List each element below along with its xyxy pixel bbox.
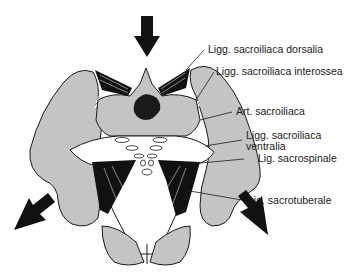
label-art-sacroiliaca: Art. sacroiliaca xyxy=(236,106,305,117)
label-ligg-sacroiliaca-ventralia-line2: ventralia xyxy=(246,141,286,152)
arrow-up-left-icon xyxy=(14,193,55,230)
dorsal-ligament-right xyxy=(158,68,190,96)
pelvis-diagram: Ligg. sacroiliaca dorsalia Ligg. sacroil… xyxy=(0,0,356,275)
arrow-down-icon xyxy=(134,16,160,57)
label-lig-sacrospinale: Lig. sacrospinale xyxy=(258,153,337,164)
label-lig-sacrotuberale: Lig. sacrotuberale xyxy=(248,195,331,206)
label-ligg-sacroiliaca-interossea: Ligg. sacroiliaca interossea xyxy=(216,66,343,77)
label-ligg-sacroiliaca-dorsalia: Ligg. sacroiliaca dorsalia xyxy=(208,44,323,55)
